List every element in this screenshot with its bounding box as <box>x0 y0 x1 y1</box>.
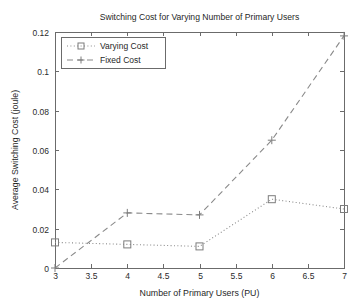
x-tick-label: 3.5 <box>86 271 98 281</box>
y-tick-label: 0.04 <box>32 185 49 195</box>
legend-label-1: Fixed Cost <box>100 55 141 65</box>
chart-figure: 33.544.555.566.5700.020.040.060.080.10.1… <box>0 0 363 308</box>
chart-canvas: 33.544.555.566.5700.020.040.060.080.10.1… <box>0 0 363 308</box>
chart-legend: Varying CostFixed Cost <box>62 38 166 69</box>
x-tick-label: 4 <box>125 271 130 281</box>
series-line-0 <box>55 199 344 246</box>
marker-square <box>196 243 203 250</box>
y-tick-label: 0 <box>44 264 49 274</box>
marker-square <box>268 196 275 203</box>
chart-title: Switching Cost for Varying Number of Pri… <box>100 12 299 22</box>
series-line-1 <box>55 36 344 268</box>
x-tick-label: 7 <box>342 271 347 281</box>
y-axis-title: Average Switching Cost (joule) <box>10 90 20 210</box>
x-tick-label: 5.5 <box>231 271 243 281</box>
x-tick-label: 5 <box>198 271 203 281</box>
y-tick-label: 0.12 <box>32 28 49 38</box>
legend-label-0: Varying Cost <box>100 41 149 51</box>
x-tick-label: 6 <box>270 271 275 281</box>
y-tick-label: 0.1 <box>37 67 49 77</box>
y-tick-label: 0.02 <box>32 225 49 235</box>
x-tick-label: 6.5 <box>303 271 315 281</box>
x-axis-title: Number of Primary Users (PU) <box>140 288 260 298</box>
y-tick-label: 0.08 <box>32 107 49 117</box>
x-tick-label: 3 <box>53 271 58 281</box>
y-tick-label: 0.06 <box>32 146 49 156</box>
x-tick-label: 4.5 <box>158 271 170 281</box>
